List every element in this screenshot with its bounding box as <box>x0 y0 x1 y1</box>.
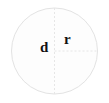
radius-label: r <box>64 32 71 47</box>
diagram-canvas <box>0 0 109 103</box>
circle-diagram: d r <box>0 0 109 103</box>
diameter-label: d <box>40 40 48 55</box>
